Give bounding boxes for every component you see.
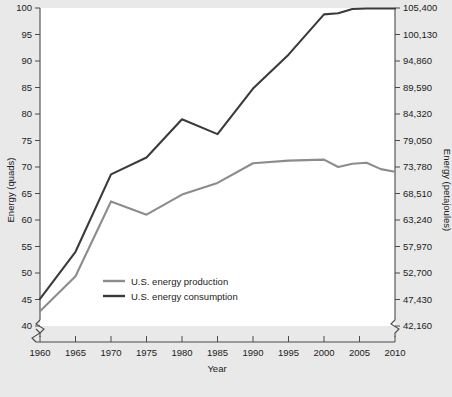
right-tick-label-84320: 84,320 xyxy=(403,108,432,119)
energy-chart-figure: 404550556065707580859095100 Energy (quad… xyxy=(0,0,452,397)
series-line-us-energy-production xyxy=(40,160,395,312)
x-tick-label-1975: 1975 xyxy=(136,347,157,358)
x-tick-label-1980: 1980 xyxy=(171,347,192,358)
left-tick-label-85: 85 xyxy=(21,82,32,93)
right-tick-label-47430: 47,430 xyxy=(403,294,432,305)
x-axis-title: Year xyxy=(207,363,226,374)
chart-legend: U.S. energy production U.S. energy consu… xyxy=(103,276,238,302)
right-tick-label-68510: 68,510 xyxy=(403,188,432,199)
series-line-us-energy-consumption xyxy=(40,9,395,299)
right-tick-label-73780: 73,780 xyxy=(403,161,432,172)
x-tick-label-1970: 1970 xyxy=(100,347,121,358)
x-tick-label-1990: 1990 xyxy=(242,347,263,358)
x-tick-label-2000: 2000 xyxy=(313,347,334,358)
x-axis-start-break-icon xyxy=(32,329,40,342)
right-tick-label-42160: 42,160 xyxy=(403,320,432,331)
left-axis-title: Energy (quads) xyxy=(5,158,16,223)
right-axis-break-icon xyxy=(391,320,399,337)
left-tick-label-50: 50 xyxy=(21,267,32,278)
left-tick-label-95: 95 xyxy=(21,29,32,40)
x-axis: 1960196519701975198019851990199520002005… xyxy=(29,329,405,374)
left-tick-label-55: 55 xyxy=(21,241,32,252)
right-tick-label-52700: 52,700 xyxy=(403,267,432,278)
left-tick-label-80: 80 xyxy=(21,108,32,119)
left-axis-tick-labels: 404550556065707580859095100 xyxy=(16,2,32,331)
right-tick-label-57970: 57,970 xyxy=(403,241,432,252)
left-tick-label-70: 70 xyxy=(21,161,32,172)
left-tick-label-100: 100 xyxy=(16,2,32,13)
x-tick-label-2010: 2010 xyxy=(384,347,405,358)
left-tick-label-75: 75 xyxy=(21,135,32,146)
right-tick-label-89590: 89,590 xyxy=(403,82,432,93)
right-tick-label-105400: 105,400 xyxy=(403,2,437,13)
chart-canvas: 404550556065707580859095100 Energy (quad… xyxy=(0,0,452,397)
x-tick-label-1995: 1995 xyxy=(278,347,299,358)
left-tick-label-65: 65 xyxy=(21,188,32,199)
left-axis: 404550556065707580859095100 Energy (quad… xyxy=(5,2,44,337)
legend-label-us-energy-consumption: U.S. energy consumption xyxy=(131,291,238,302)
right-tick-label-63240: 63,240 xyxy=(403,214,432,225)
right-tick-label-94860: 94,860 xyxy=(403,55,432,66)
right-axis-title: Energy (petajoules) xyxy=(442,149,452,231)
x-axis-ticks xyxy=(40,336,395,342)
x-tick-label-1985: 1985 xyxy=(207,347,228,358)
left-tick-label-40: 40 xyxy=(21,320,32,331)
left-tick-label-60: 60 xyxy=(21,214,32,225)
right-axis-tick-labels: 42,16047,43052,70057,97063,24068,51073,7… xyxy=(403,2,437,331)
left-tick-label-45: 45 xyxy=(21,294,32,305)
right-axis-ticks xyxy=(395,8,400,326)
x-axis-tick-labels: 1960196519701975198019851990199520002005… xyxy=(29,347,405,358)
right-axis: 42,16047,43052,70057,97063,24068,51073,7… xyxy=(391,2,452,337)
left-tick-label-90: 90 xyxy=(21,55,32,66)
legend-label-us-energy-production: U.S. energy production xyxy=(131,276,228,287)
left-axis-ticks xyxy=(35,8,40,326)
right-tick-label-79050: 79,050 xyxy=(403,135,432,146)
x-tick-label-1960: 1960 xyxy=(29,347,50,358)
data-series-group xyxy=(40,9,395,312)
x-tick-label-2005: 2005 xyxy=(349,347,370,358)
x-tick-label-1965: 1965 xyxy=(65,347,86,358)
right-tick-label-100130: 100,130 xyxy=(403,29,437,40)
